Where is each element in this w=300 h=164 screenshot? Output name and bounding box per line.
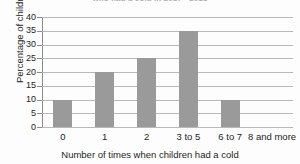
y-axis-tick-label: 15 xyxy=(20,81,36,90)
y-axis-tick-mark xyxy=(37,58,42,59)
y-axis-tick-label: 35 xyxy=(20,26,36,35)
bar xyxy=(53,100,72,128)
y-axis-tick-label: 20 xyxy=(20,68,36,77)
gridline xyxy=(42,58,293,59)
x-axis-tick-label: 8 and more xyxy=(243,131,300,143)
bar-chart: who had a cold in 2017 - 2018 Percentage… xyxy=(0,0,300,164)
gridline xyxy=(42,17,293,18)
chart-title: who had a cold in 2017 - 2018 xyxy=(0,0,300,2)
y-axis-tick-mark xyxy=(37,45,42,46)
y-axis-tick-label: 5 xyxy=(20,109,36,118)
gridline xyxy=(42,72,293,73)
y-axis-tick-mark xyxy=(37,31,42,32)
plot-area xyxy=(42,17,293,127)
gridline xyxy=(42,45,293,46)
y-axis-tick-mark xyxy=(37,127,42,128)
y-axis-tick-mark xyxy=(37,86,42,87)
bar xyxy=(179,31,198,127)
gridline xyxy=(42,31,293,32)
y-axis-tick-labels: 0510152025303540 xyxy=(14,17,36,127)
bar xyxy=(95,72,114,127)
bar xyxy=(221,100,240,128)
gridline xyxy=(42,113,293,114)
gridline xyxy=(42,86,293,87)
y-axis-tick-mark xyxy=(37,100,42,101)
x-axis-tick-labels: 0123 to 56 to 78 and more xyxy=(42,131,293,145)
gridline xyxy=(42,100,293,101)
y-axis-tick-mark xyxy=(37,72,42,73)
bar xyxy=(137,58,156,127)
y-axis-tick-label: 25 xyxy=(20,54,36,63)
y-axis-tick-mark xyxy=(37,17,42,18)
y-axis-tick-label: 30 xyxy=(20,40,36,49)
y-axis-tick-label: 10 xyxy=(20,95,36,104)
y-axis-tick-label: 40 xyxy=(20,13,36,22)
gridline xyxy=(42,127,293,128)
y-axis-tick-mark xyxy=(37,113,42,114)
x-axis-title: Number of times when children had a cold xyxy=(0,149,300,160)
